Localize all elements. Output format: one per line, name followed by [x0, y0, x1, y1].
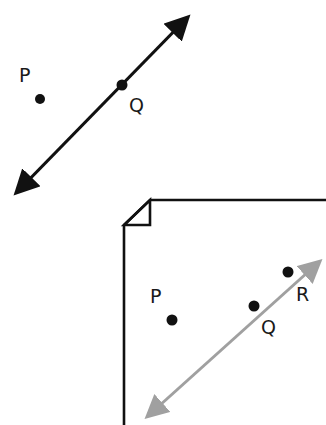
- geometry-diagram: P Q P Q R: [0, 0, 326, 425]
- point-r-dot-plane: [283, 267, 294, 278]
- point-p-label: P: [19, 64, 30, 86]
- point-q-dot-plane: [249, 301, 260, 312]
- line-pq-top: [18, 19, 186, 191]
- point-q-label-plane: Q: [261, 316, 276, 338]
- point-r-label-plane: R: [296, 283, 309, 305]
- line-qr-plane: [149, 263, 318, 415]
- point-p-dot-plane: [167, 315, 178, 326]
- point-p-label-plane: P: [150, 285, 161, 307]
- point-q-label: Q: [129, 94, 144, 116]
- top-figure: P Q: [18, 19, 186, 191]
- point-q-dot: [117, 80, 128, 91]
- point-p-dot: [35, 94, 45, 104]
- plane-outline: [124, 200, 326, 425]
- folded-corner-icon: [124, 200, 150, 225]
- bottom-figure: P Q R: [124, 200, 326, 425]
